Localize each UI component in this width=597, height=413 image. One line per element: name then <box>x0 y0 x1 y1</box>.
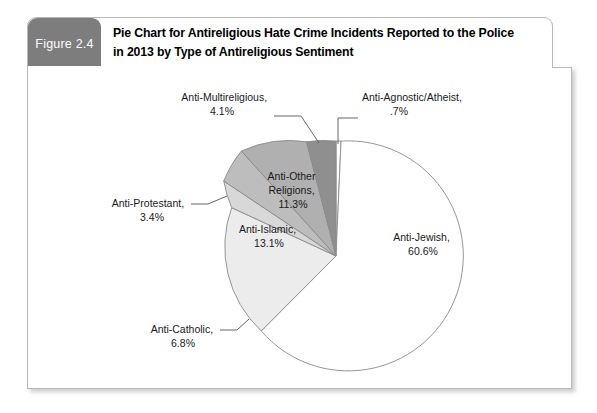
figure-card: Anti-Agnostic/Atheist, .7% Anti-Multirel… <box>27 17 572 389</box>
figure-body-panel: Anti-Agnostic/Atheist, .7% Anti-Multirel… <box>27 67 572 389</box>
leader-line-anti-agnostic-atheist <box>338 118 358 144</box>
figure-header-tab: Figure 2.4 Pie Chart for Antireligious H… <box>27 17 553 68</box>
pie-chart-area: Anti-Agnostic/Atheist, .7% Anti-Multirel… <box>28 68 573 390</box>
leader-line-anti-protestant <box>191 196 227 204</box>
tab-body-seam <box>28 66 552 69</box>
figure-title-line-1: Pie Chart for Antireligious Hate Crime I… <box>113 24 542 43</box>
pie-label-anti-catholic: Anti-Catholic, 6.8% <box>151 323 216 349</box>
pie-label-anti-multireligious: Anti-Multireligious, 4.1% <box>181 91 270 117</box>
pie-label-anti-protestant: Anti-Protestant, 3.4% <box>112 197 187 223</box>
figure-number-badge: Figure 2.4 <box>28 18 101 69</box>
leader-line-anti-multireligious <box>274 116 319 143</box>
figure-number-label: Figure 2.4 <box>35 37 93 51</box>
figure-title-line-2: in 2013 by Type of Antireligious Sentime… <box>113 43 542 62</box>
pie-label-anti-agnostic-atheist: Anti-Agnostic/Atheist, .7% <box>362 91 465 117</box>
figure-title: Pie Chart for Antireligious Hate Crime I… <box>113 24 542 62</box>
leader-line-anti-catholic <box>220 319 249 330</box>
pie-chart-svg: Anti-Agnostic/Atheist, .7% Anti-Multirel… <box>28 68 573 390</box>
